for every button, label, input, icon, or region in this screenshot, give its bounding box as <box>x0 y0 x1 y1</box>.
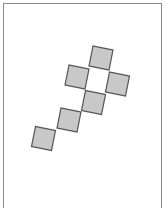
squares-group <box>31 46 129 151</box>
square-top <box>89 46 113 70</box>
square-bottom-left <box>31 126 55 150</box>
square-middle-left <box>65 65 89 89</box>
square-middle-right <box>105 72 129 96</box>
square-lower <box>57 108 81 132</box>
cube-net-diagram <box>0 0 168 208</box>
square-below-center <box>81 90 105 114</box>
